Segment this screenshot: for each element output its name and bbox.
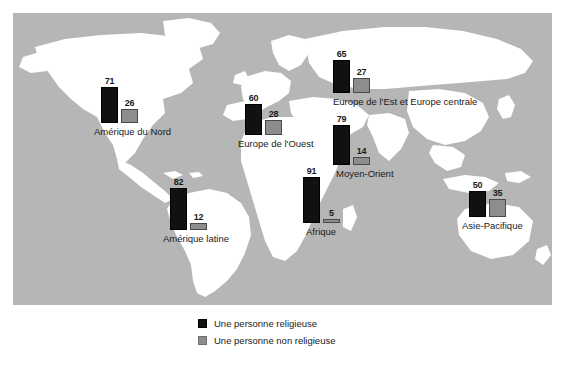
bar-nonreligious-asia-pacific <box>489 199 506 217</box>
bar-col-nonreligious-africa: 5 <box>323 208 340 223</box>
region-label-africa: Afrique <box>306 226 336 237</box>
world-map-bar-chart: 71 26 Amérique du Nord 60 28 <box>0 0 566 367</box>
bar-nonreligious-eastern-europe <box>353 78 370 93</box>
bar-col-religious-asia-pacific: 50 <box>469 180 486 217</box>
bar-religious-western-europe <box>245 104 262 135</box>
bar-group-middle-east: 79 14 <box>333 113 393 165</box>
bar-value-religious-asia-pacific: 50 <box>473 180 483 190</box>
bar-group-latin-america: 82 12 <box>170 178 230 230</box>
bar-value-nonreligious-middle-east: 14 <box>357 146 367 156</box>
bar-value-nonreligious-western-europe: 28 <box>269 109 279 119</box>
bars-middle-east: 79 14 <box>333 114 370 165</box>
bar-nonreligious-middle-east <box>353 157 370 165</box>
bar-value-nonreligious-north-america: 26 <box>125 98 135 108</box>
bar-col-religious-north-america: 71 <box>101 76 118 123</box>
bar-nonreligious-north-america <box>121 109 138 123</box>
bar-nonreligious-africa <box>323 219 340 223</box>
bars-eastern-europe: 65 27 <box>333 49 370 93</box>
bar-col-nonreligious-asia-pacific: 35 <box>489 188 506 217</box>
bar-religious-eastern-europe <box>333 60 350 93</box>
bar-value-nonreligious-asia-pacific: 35 <box>493 188 503 198</box>
bar-group-north-america: 71 26 <box>101 71 161 123</box>
bar-value-religious-africa: 91 <box>307 166 317 176</box>
bar-religious-north-america <box>101 87 118 123</box>
region-label-asia-pacific: Asie-Pacifique <box>462 220 523 231</box>
legend-item-religious: Une personne religieuse <box>198 318 335 329</box>
legend-item-nonreligious: Une personne non religieuse <box>198 335 335 346</box>
world-map-landmasses <box>13 13 552 305</box>
bar-value-religious-middle-east: 79 <box>337 114 347 124</box>
bar-value-nonreligious-eastern-europe: 27 <box>357 67 367 77</box>
bar-value-religious-latin-america: 82 <box>174 177 184 187</box>
bar-col-religious-middle-east: 79 <box>333 114 350 165</box>
bar-col-nonreligious-middle-east: 14 <box>353 146 370 165</box>
bar-value-nonreligious-africa: 5 <box>329 208 334 218</box>
bar-group-eastern-europe: 65 27 <box>333 38 393 93</box>
bar-religious-latin-america <box>170 188 187 230</box>
bars-western-europe: 60 28 <box>245 93 282 135</box>
bars-africa: 91 5 <box>303 166 340 223</box>
bar-col-religious-eastern-europe: 65 <box>333 49 350 93</box>
bar-group-asia-pacific: 50 35 <box>469 173 529 217</box>
bars-north-america: 71 26 <box>101 76 138 123</box>
bars-asia-pacific: 50 35 <box>469 180 506 217</box>
bar-col-nonreligious-eastern-europe: 27 <box>353 67 370 93</box>
bar-nonreligious-latin-america <box>190 223 207 230</box>
legend-swatch-religious-icon <box>198 319 207 328</box>
bar-col-religious-western-europe: 60 <box>245 93 262 135</box>
bar-group-africa: 91 5 <box>303 168 363 223</box>
bar-col-religious-latin-america: 82 <box>170 177 187 230</box>
bar-religious-middle-east <box>333 125 350 165</box>
region-label-western-europe: Europe de l'Ouest <box>238 138 314 149</box>
region-label-north-america: Amérique du Nord <box>94 126 171 137</box>
bar-value-religious-eastern-europe: 65 <box>337 49 347 59</box>
legend-label-religious: Une personne religieuse <box>214 318 317 329</box>
bar-col-nonreligious-western-europe: 28 <box>265 109 282 135</box>
bar-value-nonreligious-latin-america: 12 <box>194 212 204 222</box>
legend-swatch-nonreligious-icon <box>198 336 207 345</box>
bar-value-religious-north-america: 71 <box>105 76 115 86</box>
bar-group-western-europe: 60 28 <box>245 83 305 135</box>
bar-value-religious-western-europe: 60 <box>249 93 259 103</box>
legend-label-nonreligious: Une personne non religieuse <box>214 335 335 346</box>
world-map-panel: 71 26 Amérique du Nord 60 28 <box>13 13 552 305</box>
chart-legend: Une personne religieuse Une personne non… <box>198 318 335 352</box>
region-label-latin-america: Amérique latine <box>163 233 229 244</box>
region-label-eastern-europe: Europe de l'Est et Europe centrale <box>333 96 477 107</box>
bar-col-nonreligious-north-america: 26 <box>121 98 138 123</box>
bar-col-nonreligious-latin-america: 12 <box>190 212 207 230</box>
bar-religious-africa <box>303 177 320 223</box>
bar-religious-asia-pacific <box>469 191 486 217</box>
bar-nonreligious-western-europe <box>265 120 282 135</box>
bars-latin-america: 82 12 <box>170 177 207 230</box>
bar-col-religious-africa: 91 <box>303 166 320 223</box>
